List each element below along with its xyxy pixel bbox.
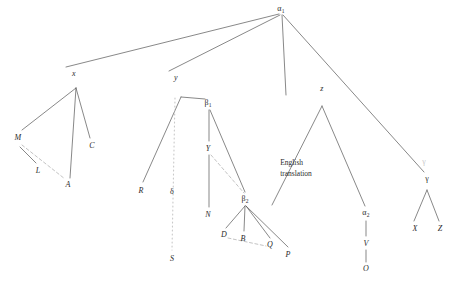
tree-edge-Y-beta2 xyxy=(211,155,244,193)
tree-node-x: x xyxy=(72,69,76,78)
tree-edge-x-apex-A xyxy=(70,88,76,178)
tree-diagram-canvas: α1xyzγγMLCAβ1RδSYNβ2DBQPα2VOXZEnglish tr… xyxy=(0,0,452,287)
tree-edge-x-apex-C xyxy=(76,88,90,138)
tree-edge-y-apex-S-dotted xyxy=(172,98,175,250)
tree-node-gamma: γ xyxy=(425,174,429,183)
tree-node-Y: Y xyxy=(206,144,211,153)
tree-edge-alpha1-z xyxy=(282,15,286,95)
tree-edge-D-Q-dashed xyxy=(228,238,266,246)
tree-node-B: B xyxy=(240,234,245,243)
tree-edge-y-apex-beta1 xyxy=(181,97,205,99)
tree-edge-alpha1-x xyxy=(66,14,279,67)
tree-node-M: M xyxy=(15,133,22,142)
tree-node-V: V xyxy=(363,239,368,248)
tree-node-alpha2: α2 xyxy=(362,208,369,218)
tree-node-S: S xyxy=(170,254,174,263)
tree-edges-layer xyxy=(0,0,452,287)
tree-edge-y-apex-R xyxy=(143,97,181,182)
tree-node-P: P xyxy=(285,250,290,259)
tree-node-Z: Z xyxy=(438,224,443,233)
tree-edge-gamma-X xyxy=(414,190,427,221)
tree-node-X: X xyxy=(412,224,417,233)
tree-edge-beta2-D xyxy=(226,206,245,228)
tree-edge-alpha1-gamma xyxy=(283,15,424,172)
tree-node-z: z xyxy=(320,84,323,93)
tree-edge-z-apex-left xyxy=(272,106,322,205)
tree-node-O: O xyxy=(363,264,369,273)
tree-node-R: R xyxy=(138,186,143,195)
tree-edge-M-A xyxy=(22,145,65,179)
tree-node-C: C xyxy=(89,141,95,150)
tree-node-Q: Q xyxy=(267,240,273,249)
tree-edge-alpha1-y xyxy=(169,15,280,71)
tree-edge-x-apex-M xyxy=(22,88,76,130)
tree-node-delta: δ xyxy=(170,187,174,196)
tree-edge-beta1-beta2 xyxy=(210,110,245,192)
tree-edge-beta2-B xyxy=(244,206,245,231)
tree-node-y: y xyxy=(174,73,178,82)
tree-node-D: D xyxy=(221,230,227,239)
tree-edge-z-apex-alpha2 xyxy=(322,106,365,206)
tree-edge-beta2-Q xyxy=(246,206,270,238)
annotation-english-translation: English translation xyxy=(280,157,312,179)
tree-node-A: A xyxy=(65,180,70,189)
tree-node-L: L xyxy=(36,166,41,175)
tree-node-alpha1: α1 xyxy=(277,4,284,14)
tree-node-beta2: β2 xyxy=(241,194,248,204)
tree-node-N: N xyxy=(205,210,211,219)
tree-node-gamma-faint: γ xyxy=(422,157,426,166)
tree-edge-gamma-Z xyxy=(427,190,439,221)
tree-node-beta1: β1 xyxy=(204,98,211,108)
